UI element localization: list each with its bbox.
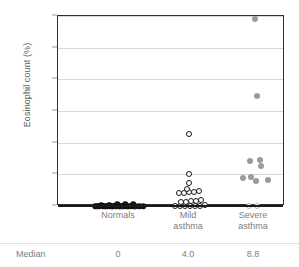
data-point: [257, 157, 263, 163]
x-category-label-normals: Normals: [101, 210, 135, 221]
data-point: [186, 171, 192, 177]
data-point: [196, 188, 202, 194]
gridline-20: [58, 143, 283, 144]
data-point: [265, 177, 271, 183]
median-row-label: Median: [16, 249, 46, 259]
median-value-mild-asthma: 4.0: [182, 249, 195, 259]
gridline-60: [58, 16, 283, 17]
data-point: [248, 174, 254, 180]
data-point: [253, 178, 259, 184]
eosinophil-count-dot-plot: Eosinophil count (%) 0102030405060 Norma…: [0, 0, 299, 267]
x-axis-baseline: [58, 205, 283, 207]
data-point: [247, 158, 253, 164]
data-point: [252, 16, 258, 22]
median-row: Median 04.08.8: [0, 243, 299, 264]
data-point: [258, 163, 264, 169]
y-axis-title: Eosinophil count (%): [22, 10, 32, 160]
plot-area: [57, 15, 284, 205]
data-point: [186, 180, 192, 186]
gridline-40: [58, 79, 283, 80]
gridline-30: [58, 111, 283, 112]
gridline-50: [58, 48, 283, 49]
data-point: [240, 175, 246, 181]
x-category-label-severe-asthma: Severe asthma: [238, 210, 268, 232]
data-point: [186, 131, 192, 137]
data-point: [184, 186, 190, 192]
median-value-normals: 0: [115, 249, 120, 259]
data-point: [254, 93, 260, 99]
median-value-severe-asthma: 8.8: [247, 249, 260, 259]
x-category-label-mild-asthma: Mild asthma: [173, 210, 203, 232]
data-point: [198, 197, 204, 203]
